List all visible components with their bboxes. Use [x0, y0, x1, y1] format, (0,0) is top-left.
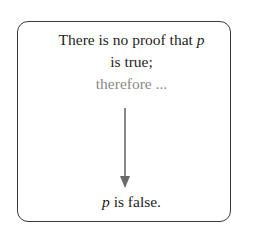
down-arrow-icon: [118, 106, 132, 190]
conclusion-text: is false.: [110, 193, 161, 210]
premise-line-2: is true;: [0, 53, 263, 71]
conclusion: p is false.: [0, 193, 263, 211]
conclusion-variable: p: [102, 193, 110, 210]
connector-text: therefore ...: [0, 75, 263, 93]
premise-variable: p: [197, 31, 205, 48]
premise-line-1: There is no proof that p: [0, 31, 263, 49]
premise-text: There is no proof that: [59, 31, 197, 48]
